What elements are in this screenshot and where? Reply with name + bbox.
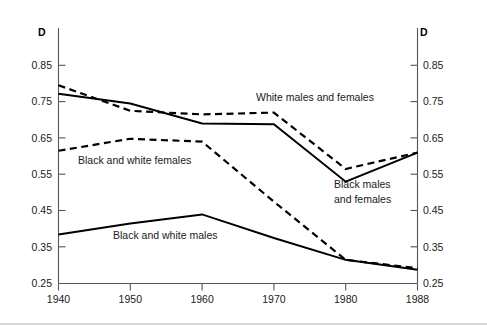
- annotation-black-and-white-males: Black and white males: [113, 229, 217, 241]
- annotation-black-males-line2: and females: [334, 193, 391, 205]
- annotation-black-males-line1: Black males: [334, 178, 391, 190]
- chart-background: [0, 0, 487, 331]
- right-ticklabel-025: 0.25: [423, 277, 444, 289]
- x-ticklabel-1988: 1988: [406, 293, 430, 305]
- right-ticklabel-075: 0.75: [423, 95, 444, 107]
- chart-figure: D 0.85 0.75 0.65 0.55 0.45 0.35 0.25 D: [0, 0, 487, 331]
- right-ticklabel-045: 0.45: [423, 204, 444, 216]
- left-ticklabel-075: 0.75: [32, 95, 53, 107]
- x-ticklabel-1980: 1980: [334, 293, 358, 305]
- left-ticklabel-045: 0.45: [32, 204, 53, 216]
- left-ticklabel-065: 0.65: [32, 132, 53, 144]
- left-ticklabel-085: 0.85: [32, 59, 53, 71]
- left-ticklabel-035: 0.35: [32, 241, 53, 253]
- right-ticklabel-035: 0.35: [423, 241, 444, 253]
- line-chart-canvas: D 0.85 0.75 0.65 0.55 0.45 0.35 0.25 D: [0, 0, 487, 331]
- left-ticklabel-055: 0.55: [32, 168, 53, 180]
- x-ticklabel-1940: 1940: [47, 293, 71, 305]
- right-ticklabel-085: 0.85: [423, 59, 444, 71]
- right-axis-title: D: [420, 26, 428, 38]
- x-ticklabel-1950: 1950: [119, 293, 143, 305]
- annotation-white-males-and-females: White males and females: [256, 91, 374, 103]
- annotation-black-and-white-females: Black and white females: [78, 154, 191, 166]
- right-ticklabel-065: 0.65: [423, 132, 444, 144]
- right-ticklabel-055: 0.55: [423, 168, 444, 180]
- x-ticklabel-1970: 1970: [262, 293, 286, 305]
- left-ticklabel-025: 0.25: [32, 277, 53, 289]
- left-axis-title: D: [38, 26, 46, 38]
- x-ticklabel-1960: 1960: [190, 293, 214, 305]
